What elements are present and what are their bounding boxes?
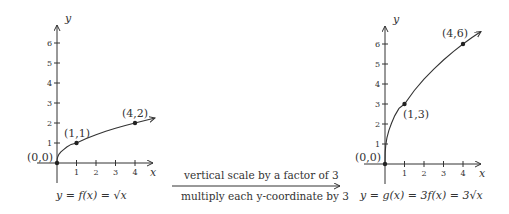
diagram-canvas: x y 1 2 3 4 1 2 3 4 5 6 — [0, 0, 509, 214]
left-y-tick-1: 1 — [47, 139, 52, 148]
right-y-tick-6: 6 — [375, 40, 380, 49]
transformation: vertical scale by a factor of 3 multiply… — [172, 169, 349, 202]
left-y-axis-label: y — [64, 12, 72, 25]
left-y-tick-3: 3 — [47, 99, 52, 108]
right-y-tick-5: 5 — [375, 60, 380, 69]
left-caption: y = f(x) = √x — [55, 189, 128, 202]
left-y-tick-5: 5 — [47, 59, 52, 68]
transformation-top-label: vertical scale by a factor of 3 — [183, 169, 339, 181]
right-x-tick-1: 1 — [402, 169, 407, 178]
right-y-ticks: 1 2 3 4 5 6 — [375, 40, 388, 149]
right-point-origin — [383, 162, 387, 166]
right-y-tick-2: 2 — [375, 120, 380, 129]
right-x-tick-3: 3 — [441, 169, 446, 178]
right-y-tick-4: 4 — [375, 80, 380, 89]
left-point-4-2-label: (4,2) — [122, 107, 148, 120]
right-graph: x y 1 2 3 4 1 2 3 4 5 6 — [355, 13, 486, 202]
left-y-ticks: 1 2 3 4 5 6 — [47, 39, 60, 148]
right-point-4-6-label: (4,6) — [442, 27, 468, 40]
right-point-1-3-label: (1,3) — [403, 108, 429, 121]
left-graph: x y 1 2 3 4 1 2 3 4 5 6 — [27, 12, 157, 202]
left-x-axis-label: x — [150, 166, 157, 179]
left-curve-sqrt — [57, 118, 155, 163]
transformation-bottom-label: multiply each y-coordinate by 3 — [181, 190, 349, 202]
right-x-tick-4: 4 — [461, 169, 466, 178]
left-x-tick-2: 2 — [94, 168, 99, 177]
right-y-tick-3: 3 — [375, 100, 380, 109]
right-point-origin-label: (0,0) — [355, 151, 381, 164]
right-x-axis-label: x — [479, 167, 486, 180]
right-caption: y = g(x) = 3f(x) = 3√x — [359, 189, 484, 202]
left-x-tick-1: 1 — [74, 168, 79, 177]
left-point-4-2 — [133, 121, 137, 125]
left-point-origin — [55, 161, 59, 165]
left-y-tick-4: 4 — [47, 79, 52, 88]
right-y-axis-label: y — [392, 13, 400, 26]
left-y-tick-2: 2 — [47, 119, 52, 128]
left-point-origin-label: (0,0) — [27, 151, 53, 164]
right-x-tick-2: 2 — [422, 169, 427, 178]
left-point-1-1-label: (1,1) — [64, 127, 90, 140]
left-x-tick-4: 4 — [133, 168, 138, 177]
right-point-1-3 — [402, 102, 406, 106]
right-point-4-6 — [461, 42, 465, 46]
left-point-1-1 — [74, 141, 78, 145]
left-y-tick-6: 6 — [47, 39, 52, 48]
left-x-tick-3: 3 — [113, 168, 118, 177]
right-y-tick-1: 1 — [375, 140, 380, 149]
right-curve-3sqrt — [385, 32, 481, 165]
